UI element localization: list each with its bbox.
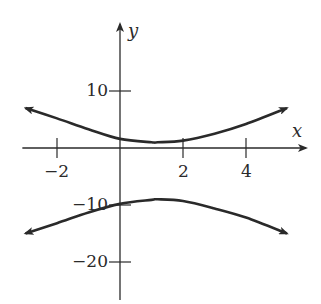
x-axis-label: x — [292, 122, 302, 140]
lower-branch-curve — [26, 199, 287, 233]
x-tick-label: 4 — [241, 163, 252, 180]
y-tick-label: −10 — [72, 196, 108, 213]
y-axis-label: y — [128, 22, 138, 40]
y-tick-label: 10 — [86, 82, 108, 99]
x-tick-label: −2 — [44, 163, 69, 180]
upper-branch-curve — [26, 108, 287, 143]
x-tick-label: 2 — [178, 163, 189, 180]
hyperbola-graph: −22410−10−20xy — [0, 0, 321, 304]
plot-area — [0, 0, 321, 304]
y-tick-label: −20 — [72, 253, 108, 270]
